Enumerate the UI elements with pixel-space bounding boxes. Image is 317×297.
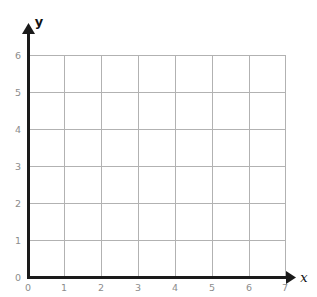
x-tick-label: 4 xyxy=(172,282,178,293)
x-tick-label: 2 xyxy=(98,282,104,293)
x-axis xyxy=(27,271,296,284)
y-tick-label: 4 xyxy=(15,124,21,135)
y-tick-label: 1 xyxy=(15,235,21,246)
horizontal-gridlines xyxy=(29,56,286,241)
y-tick-labels: 0 1 2 3 4 5 6 xyxy=(15,50,21,283)
x-tick-labels: 0 1 2 3 4 5 6 7 xyxy=(25,282,288,293)
x-tick-label: 7 xyxy=(282,282,288,293)
x-tick-label: 3 xyxy=(135,282,141,293)
y-tick-label: 5 xyxy=(15,87,21,98)
y-tick-label: 0 xyxy=(15,272,21,283)
x-tick-label: 0 xyxy=(25,282,31,293)
x-tick-label: 1 xyxy=(61,282,67,293)
x-tick-label: 6 xyxy=(246,282,252,293)
coordinate-grid-figure: 0 1 2 3 4 5 6 7 0 1 2 3 4 5 6 y x xyxy=(0,0,317,297)
y-tick-label: 2 xyxy=(15,198,21,209)
x-axis-label: x xyxy=(300,270,308,285)
y-axis-arrow-icon xyxy=(22,23,35,34)
y-axis-label: y xyxy=(35,14,44,29)
x-tick-label: 5 xyxy=(209,282,215,293)
y-tick-label: 6 xyxy=(15,50,21,61)
plot-svg: 0 1 2 3 4 5 6 7 0 1 2 3 4 5 6 y x xyxy=(0,0,317,297)
y-tick-label: 3 xyxy=(15,161,21,172)
